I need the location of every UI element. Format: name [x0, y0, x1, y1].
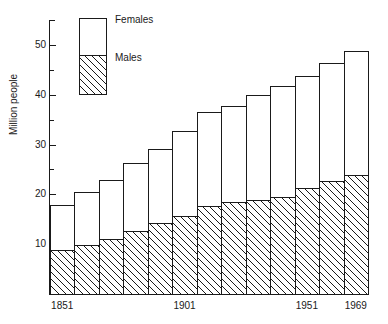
x-tick-label: 1901	[166, 300, 202, 311]
bar-stack	[74, 192, 99, 294]
legend-swatch-males	[79, 55, 107, 95]
bar-stack	[319, 63, 344, 294]
bar-segment-males	[295, 188, 320, 295]
y-tick-label: 40	[35, 90, 46, 100]
legend-label-males: Males	[115, 52, 142, 63]
y-tick-major	[49, 95, 56, 96]
y-tick-label: 30	[35, 140, 46, 150]
y-tick-major	[49, 45, 56, 46]
bar-chart: Million people 1020304050 18511901195119…	[0, 0, 388, 324]
legend-label-females: Females	[115, 14, 153, 25]
bar-stack	[270, 86, 295, 294]
y-tick-major	[49, 145, 56, 146]
bar-segment-males	[123, 231, 148, 295]
bar-stack	[344, 51, 369, 294]
x-tick-label: 1951	[289, 300, 325, 311]
bar-segment-males	[99, 239, 124, 295]
bar-stack	[295, 76, 320, 294]
y-tick-minor	[49, 70, 54, 71]
y-tick-major	[49, 194, 56, 195]
y-axis-title: Million people	[8, 74, 19, 135]
x-tick-label: 1851	[44, 300, 80, 311]
bar-segment-males	[148, 223, 173, 295]
bar-stack	[172, 131, 197, 294]
bar-segment-males	[50, 250, 75, 295]
bar-stack	[197, 112, 222, 294]
legend	[79, 18, 107, 98]
bar-segment-males	[319, 181, 344, 295]
legend-swatch-females	[79, 18, 107, 56]
bar-stack	[50, 205, 75, 294]
y-tick-label: 20	[35, 189, 46, 199]
y-tick-minor	[49, 20, 54, 21]
bar-segment-males	[74, 245, 99, 295]
y-tick-label: 50	[35, 40, 46, 50]
bar-segment-males	[270, 197, 295, 295]
bar-stack	[148, 149, 173, 294]
y-tick-label: 10	[35, 239, 46, 249]
y-tick-minor	[49, 169, 54, 170]
bar-segment-males	[344, 175, 369, 295]
bar-stack	[221, 106, 246, 294]
bar-segment-males	[197, 206, 222, 295]
bar-stack	[99, 180, 124, 294]
bar-segment-males	[246, 200, 271, 295]
bar-stack	[246, 95, 271, 294]
x-tick-label: 1969	[338, 300, 374, 311]
bar-stack	[123, 163, 148, 294]
y-tick-minor	[49, 120, 54, 121]
bar-segment-males	[172, 216, 197, 295]
bar-segment-males	[221, 202, 246, 295]
